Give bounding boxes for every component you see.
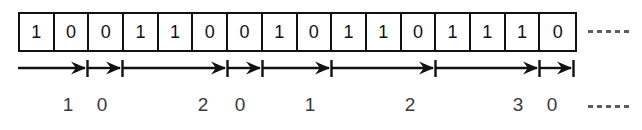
bit-cell-strip: 1001100101101110 [18, 12, 577, 52]
run-arrow [18, 60, 88, 77]
run-length-label: 1 [297, 95, 323, 114]
ellipsis-dash [597, 105, 602, 108]
run-length-label: 2 [190, 95, 216, 114]
ellipsis-dash [615, 30, 620, 33]
bit-cell: 1 [506, 14, 541, 50]
ellipsis-dash [588, 105, 593, 108]
run-length-label: 3 [505, 95, 531, 114]
ellipsis-dash [597, 30, 602, 33]
run-arrow [263, 60, 332, 77]
bit-cell: 0 [540, 14, 575, 50]
strip-continuation-ellipsis [588, 30, 629, 33]
bit-cell: 0 [298, 14, 333, 50]
run-arrow [228, 60, 263, 77]
ellipsis-dash [606, 30, 611, 33]
bit-cell: 1 [436, 14, 471, 50]
ellipsis-dash [588, 30, 593, 33]
bit-cell: 1 [159, 14, 194, 50]
bit-cell: 0 [55, 14, 90, 50]
run-length-label: 2 [397, 95, 423, 114]
run-length-label: 0 [89, 95, 115, 114]
bit-cell: 0 [228, 14, 263, 50]
ellipsis-dash [615, 105, 620, 108]
run-length-encoding-diagram: 1001100101101110 10201230 [0, 0, 642, 130]
bit-cell: 1 [263, 14, 298, 50]
ellipsis-dash [624, 105, 629, 108]
label-continuation-ellipsis [588, 105, 629, 108]
bit-cell: 1 [367, 14, 402, 50]
bit-cell: 0 [193, 14, 228, 50]
run-arrow [332, 60, 436, 77]
run-arrow [436, 60, 540, 77]
bit-cell: 1 [471, 14, 506, 50]
run-arrow [88, 60, 123, 77]
run-length-label: 1 [55, 95, 81, 114]
run-length-label: 0 [227, 95, 253, 114]
bit-cell: 0 [402, 14, 437, 50]
run-arrow [123, 60, 228, 77]
bit-cell: 0 [89, 14, 124, 50]
bit-cell: 1 [20, 14, 55, 50]
bit-cell: 1 [332, 14, 367, 50]
bit-cell: 1 [124, 14, 159, 50]
ellipsis-dash [624, 30, 629, 33]
run-arrow [540, 60, 574, 77]
ellipsis-dash [606, 105, 611, 108]
run-length-label: 0 [539, 95, 565, 114]
